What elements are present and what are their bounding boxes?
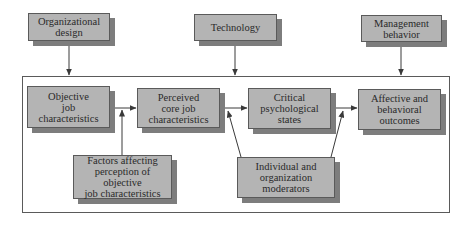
box-factors-affecting-perception: Factors affecting perception of objectiv… xyxy=(73,155,172,199)
box-critical-psychological-states: Critical psychological states xyxy=(248,88,331,129)
box-management-behavior: Management behavior xyxy=(361,15,442,42)
box-technology: Technology xyxy=(194,14,277,41)
box-objective-job-characteristics: Objective job characteristics xyxy=(27,86,110,128)
box-individual-organization-moderators: Individual and organization moderators xyxy=(237,157,335,198)
box-organizational-design: Organizational design xyxy=(28,13,110,41)
box-perceived-core-job-characteristics: Perceived core job characteristics xyxy=(137,88,220,128)
box-affective-behavioral-outcomes: Affective and behavioral outcomes xyxy=(358,89,441,130)
